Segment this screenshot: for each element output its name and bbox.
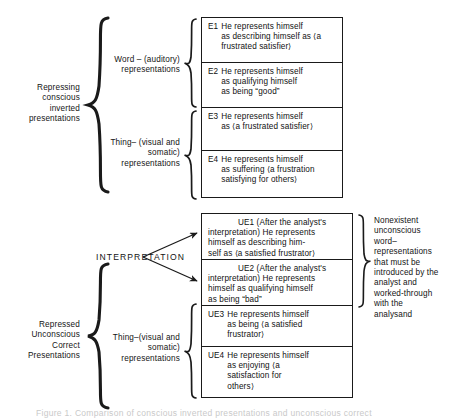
box-ue2-content: UE2 (After the analyst's interpretation)… [202,260,352,308]
box-e1-code: E1 [208,22,221,53]
box-e2-content: E2 He represents himself as qualifying h… [202,63,342,101]
box-ue3: UE3 He represents himself as being ⟨a sa… [201,305,353,347]
box-ue1-content: UE1 (After the analyst's interpretation)… [202,214,352,262]
box-ue3-content: UE3 He represents himself as being ⟨a sa… [202,306,352,344]
box-e3-text: He represents himself as ⟨a frustrated s… [221,112,338,132]
word-group-brace [183,17,199,109]
box-e4-code: E4 [208,155,221,186]
box-e1-text: He represents himself as describing hims… [221,22,338,53]
box-e3: E3 He represents himself as ⟨a frustrate… [201,107,343,151]
lower-outer-label: Repressed Unconscious Correct Presentati… [6,320,80,362]
box-e1: E1 He represents himself as describing h… [201,17,343,63]
box-ue1: UE1 (After the analyst's interpretation)… [201,213,353,260]
box-ue4-text: He represents himself as enjoying ⟨a sat… [227,351,348,392]
box-ue4-code: UE4 [208,351,227,392]
upper-outer-label: Repressing conscious inverted presentati… [6,83,80,125]
upper-thing-group-label: Thing– (visual and somatic) representati… [94,138,180,169]
box-ue2: UE2 (After the analyst's interpretation)… [201,259,353,306]
box-e1-content: E1 He represents himself as describing h… [202,18,342,56]
box-e2-code: E2 [208,67,221,98]
box-e4-text: He represents himself as suffering ⟨a fr… [221,155,338,186]
figure-canvas: Repressing conscious inverted presentati… [0,0,476,419]
box-ue4-content: UE4 He represents himself as enjoying ⟨a… [202,347,352,395]
interpretation-arrows [140,224,208,294]
lower-thing-group-brace [183,302,199,400]
word-group-label: Word – (auditory) representations [96,55,180,76]
box-ue3-text: He represents himself as being ⟨a satisf… [227,310,348,341]
box-e3-code: E3 [208,112,221,132]
annotation-brace [356,213,372,309]
box-ue2-text: UE2 (After the analyst's interpretation)… [208,264,326,304]
box-e4: E4 He represents himself as suffering ⟨a… [201,150,343,198]
upper-thing-group-brace [183,109,199,201]
box-e3-content: E3 He represents himself as ⟨a frustrate… [202,108,342,135]
box-e2: E2 He represents himself as qualifying h… [201,62,343,108]
box-ue4: UE4 He represents himself as enjoying ⟨a… [201,346,353,398]
box-ue1-text: UE1 (After the analyst's interpretation)… [208,218,326,258]
box-ue3-code: UE3 [208,310,227,341]
box-e2-text: He represents himself as qualifying hims… [221,67,338,98]
lower-thing-group-label: Thing–(visual and somatic) representatio… [94,333,180,364]
figure-caption: Figure 1. Comparison of conscious invert… [36,408,372,418]
box-e4-content: E4 He represents himself as suffering ⟨a… [202,151,342,189]
right-annotation: Nonexistent unconscious word– representa… [374,216,474,320]
